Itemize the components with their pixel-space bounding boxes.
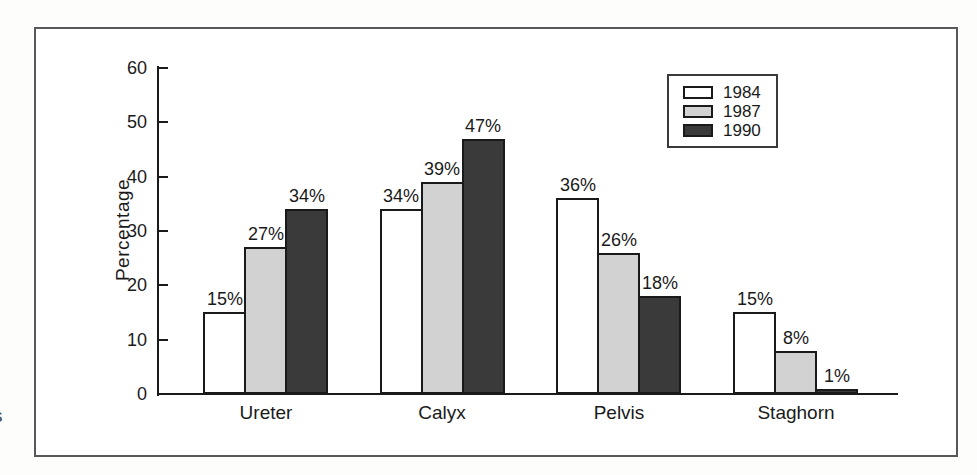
legend-label-1990: 1990	[723, 121, 761, 140]
value-label-pelvis-1990: 18%	[628, 273, 692, 294]
bar-staghorn-1984	[733, 312, 776, 394]
y-tick-40	[159, 176, 168, 178]
legend-label-1984: 1984	[723, 83, 761, 102]
bar-ureter-1990	[285, 209, 328, 394]
bar-calyx-1984	[380, 209, 423, 394]
y-tick-10	[159, 339, 168, 341]
bar-calyx-1987	[421, 182, 464, 394]
value-label-pelvis-1987: 26%	[587, 230, 651, 251]
legend-swatch-1984	[683, 86, 713, 99]
y-tick-60	[159, 67, 168, 69]
legend: 1984 1987 1990	[667, 74, 778, 148]
category-label-calyx: Calyx	[372, 402, 512, 424]
y-axis-title: Percentage	[112, 168, 134, 292]
legend-row-1990: 1990	[669, 121, 776, 140]
legend-swatch-1990	[683, 124, 713, 137]
plot-area: 010203040506015%34%36%15%27%39%26%8%34%4…	[0, 0, 977, 475]
y-tick-20	[159, 284, 168, 286]
figure-page: 010203040506015%34%36%15%27%39%26%8%34%4…	[0, 0, 977, 475]
y-tick-label-50: 50	[97, 111, 147, 133]
value-label-ureter-1990: 34%	[275, 186, 339, 207]
y-tick-label-0: 0	[97, 383, 147, 405]
category-label-staghorn: Staghorn	[726, 402, 866, 424]
value-label-staghorn-1990: 1%	[805, 366, 869, 387]
y-tick-30	[159, 230, 168, 232]
value-label-staghorn-1984: 15%	[723, 289, 787, 310]
legend-label-1987: 1987	[723, 102, 761, 121]
y-tick-label-10: 10	[97, 329, 147, 351]
bar-pelvis-1990	[638, 296, 681, 394]
category-label-ureter: Ureter	[196, 402, 336, 424]
value-label-staghorn-1987: 8%	[764, 328, 828, 349]
page-margin-text-fragment: s	[0, 405, 3, 427]
bar-staghorn-1990	[815, 389, 858, 394]
y-tick-label-60: 60	[97, 57, 147, 79]
value-label-calyx-1990: 47%	[451, 116, 515, 137]
legend-row-1984: 1984	[669, 83, 776, 102]
legend-swatch-1987	[683, 105, 713, 118]
bar-pelvis-1984	[556, 198, 599, 394]
legend-row-1987: 1987	[669, 102, 776, 121]
value-label-pelvis-1984: 36%	[546, 175, 610, 196]
category-label-pelvis: Pelvis	[549, 402, 689, 424]
bar-ureter-1987	[244, 247, 287, 394]
y-tick-50	[159, 121, 168, 123]
bar-calyx-1990	[462, 139, 505, 394]
bar-ureter-1984	[203, 312, 246, 394]
